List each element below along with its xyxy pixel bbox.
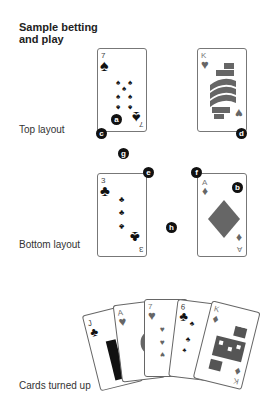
spade-icon: ♠ — [128, 79, 132, 87]
cards-turned-up-label: Cards turned up — [19, 380, 91, 391]
king-figure-icon — [204, 321, 251, 378]
bottom-layout-label: Bottom layout — [19, 239, 80, 250]
card-three-of-clubs: 3 ♣ ♣ ♣ ♣ ♣ 3 — [97, 173, 147, 257]
heart-icon: ♥ — [160, 326, 165, 334]
club-icon: ♣ — [119, 209, 124, 217]
club-icon: ♣ — [119, 196, 124, 204]
badge-g: g — [118, 148, 129, 159]
badge-d: d — [236, 128, 247, 139]
heart-icon: ♥ — [160, 339, 165, 347]
card-rank: A — [237, 245, 242, 253]
spade-icon: ♠ — [116, 103, 120, 111]
card-king-of-hearts: K ♥ ♥ — [197, 48, 247, 132]
club-icon: ♣ — [100, 183, 110, 198]
card-rank: 7 — [139, 120, 143, 128]
badge-f: f — [191, 167, 202, 178]
club-icon: ♣ — [89, 325, 100, 339]
club-icon: ♣ — [179, 309, 189, 323]
title-line-2: and play — [19, 33, 119, 45]
diamond-icon: ♦ — [202, 185, 208, 197]
heart-icon: ♥ — [118, 315, 127, 329]
club-icon: ♣ — [185, 335, 190, 343]
spade-icon: ♠ — [122, 85, 126, 93]
club-icon: ♣ — [119, 222, 124, 230]
club-icon: ♣ — [182, 347, 187, 353]
card-rank: K — [232, 376, 239, 385]
title-line-1: Sample betting — [19, 21, 119, 33]
spade-icon: ♠ — [100, 58, 109, 74]
diamond-icon: ♦ — [236, 231, 242, 243]
top-layout-label: Top layout — [19, 124, 65, 135]
badge-c: c — [96, 128, 107, 139]
heart-icon: ♥ — [235, 107, 243, 120]
spade-icon: ♠ — [116, 93, 120, 101]
badge-a: a — [111, 114, 122, 125]
spade-icon: ♠ — [128, 93, 132, 101]
badge-h: h — [166, 222, 177, 233]
diagram-title: Sample betting and play — [19, 21, 119, 45]
heart-icon: ♥ — [148, 309, 156, 322]
card-rank: 3 — [139, 245, 143, 253]
card-ace-of-diamonds: A ♦ ♦ A b — [197, 173, 247, 257]
badge-e: e — [143, 167, 154, 178]
badge-b: b — [232, 182, 243, 193]
spade-icon: ♠ — [116, 79, 120, 87]
heart-icon: ♥ — [160, 350, 165, 358]
club-icon: ♣ — [189, 320, 194, 328]
club-icon: ♣ — [130, 230, 140, 245]
card-seven-of-spades: 7 ♠ ♠ ♠ ♠ ♠ ♠ ♠ ♠ ♠ 7 a — [97, 48, 147, 132]
